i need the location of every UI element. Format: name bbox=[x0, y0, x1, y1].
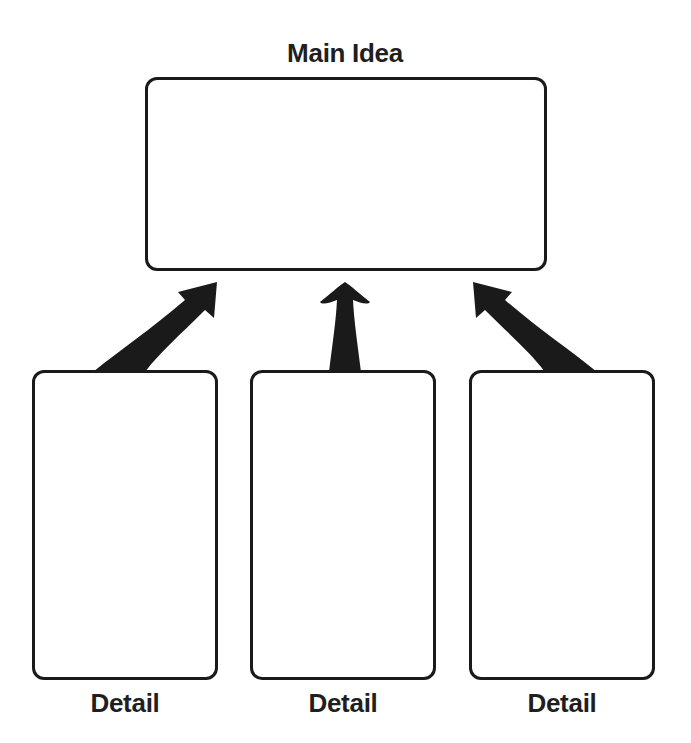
detail-label-2: Detail bbox=[250, 688, 436, 719]
detail-box-1[interactable] bbox=[32, 370, 218, 680]
arrow-right-icon bbox=[473, 282, 597, 372]
detail-label-3: Detail bbox=[469, 688, 655, 719]
detail-box-2[interactable] bbox=[250, 370, 436, 680]
arrow-center-icon bbox=[320, 282, 370, 372]
arrow-left-icon bbox=[93, 282, 217, 372]
detail-label-1: Detail bbox=[32, 688, 218, 719]
detail-box-3[interactable] bbox=[469, 370, 655, 680]
